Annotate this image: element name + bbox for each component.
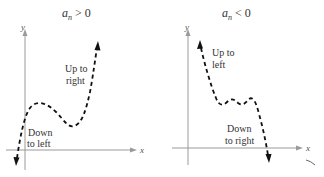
annotation-down-to-right: Down to right [225,123,254,146]
end-behavior-diagram: an>0 y x Up to right Down to left an<0 [0,0,324,177]
x-axis-arrow-icon [296,146,303,151]
annotation-up-to-right: Up to right [65,63,90,86]
stray-mark [306,160,315,165]
y-axis-label: y [184,22,189,32]
annotation-down-to-left: Down to left [27,127,55,149]
x-axis-label: x [139,145,144,155]
panel-negative-leading-coefficient: an<0 y x Up to left Down to right [172,6,315,165]
arrow-up-left-icon [197,40,203,49]
panel-title-negative: an<0 [222,6,251,22]
x-axis-label: x [305,143,310,153]
annotation-up-to-left: Up to left [212,47,237,70]
y-axis-label: y [20,22,25,32]
arrow-up-right-icon [95,41,101,51]
panel-positive-leading-coefficient: an>0 y x Up to right Down to left [6,6,144,170]
arrow-down-left-icon [14,157,20,166]
panel-title-positive: an>0 [62,6,91,22]
x-axis-arrow-icon [130,148,137,153]
arrow-down-right-icon [266,154,272,163]
